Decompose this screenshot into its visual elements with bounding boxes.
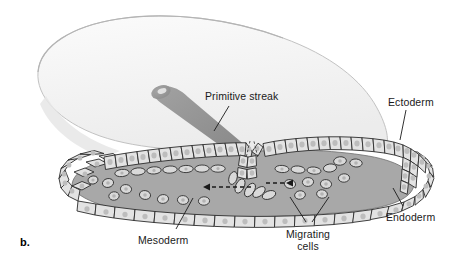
label-migrating-cells-line1: Migrating	[286, 228, 330, 240]
label-ectoderm: Ectoderm	[388, 96, 434, 108]
label-endoderm: Endoderm	[386, 211, 435, 223]
figure-panel-b: Primitive streak Ectoderm Endoderm Mesod…	[0, 0, 454, 267]
label-migrating-cells: Migrating cells	[280, 228, 336, 252]
label-mesoderm: Mesoderm	[138, 234, 188, 246]
label-primitive-streak: Primitive streak	[205, 90, 278, 102]
leader-ectoderm	[400, 110, 406, 140]
label-migrating-cells-line2: cells	[297, 240, 319, 252]
panel-letter: b.	[20, 236, 30, 248]
embryo-diagram	[0, 0, 454, 267]
